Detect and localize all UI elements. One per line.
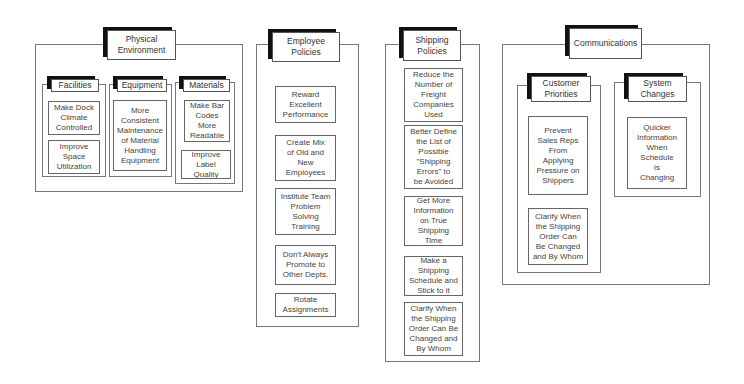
materials-title: Materials: [183, 79, 230, 92]
employee-policies-title: Employee Policies: [272, 32, 340, 62]
materials-item: Make Bar Codes More Readable: [184, 100, 230, 142]
system-item: Quicker Information When Schedule is Cha…: [627, 117, 687, 189]
facilities-item: Make Dock Climate Controlled: [48, 101, 100, 135]
employee-item: Rotate Assignments: [275, 293, 336, 317]
communications-title: Communications: [569, 28, 642, 59]
shipping-item: Get More Information on True Shipping Ti…: [404, 196, 463, 246]
facilities-title: Facilities: [51, 79, 99, 92]
shipping-policies-title: Shipping Policies: [403, 30, 461, 61]
customer-item: Prevent Sales Reps From Applying Pressur…: [528, 116, 588, 195]
materials-item: Improve Label Quality: [181, 150, 231, 179]
employee-item: Institute Team Problem Solving Training: [275, 188, 336, 235]
customer-priorities-title: Customer Priorities: [531, 76, 591, 102]
equipment-title: Equipment: [117, 79, 167, 92]
shipping-item: Clarify When the Shipping Order Can Be C…: [404, 302, 463, 356]
customer-item: Clarify When the Shipping Order Can Be C…: [528, 208, 588, 265]
shipping-item: Reduce the Number of Freight Companies U…: [404, 68, 463, 122]
shipping-item: Make a Shipping Schedule and Stick to it: [404, 256, 463, 296]
employee-item: Create Mix of Old and New Employees: [275, 135, 336, 181]
physical-environment-title: Physical Environment: [107, 30, 176, 60]
shipping-item: Better Define the List of Possible "Ship…: [404, 125, 463, 189]
equipment-item: More Consistent Maintenance of Material …: [113, 100, 167, 171]
facilities-item: Improve Space Utilization: [48, 140, 100, 174]
system-changes-title: System Changes: [628, 76, 687, 102]
employee-item: Reward Excellent Performance: [275, 86, 336, 123]
employee-item: Don't Always Promote to Other Depts.: [275, 245, 336, 285]
